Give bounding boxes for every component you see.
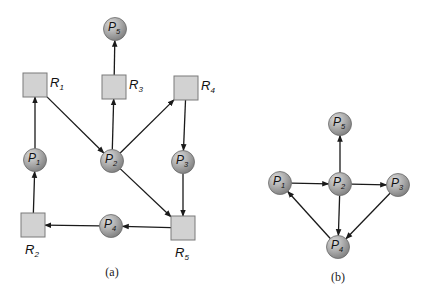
- resource-square-icon: [102, 75, 126, 99]
- node-label-subscript: 5: [184, 253, 189, 262]
- process-node-p2: P2: [329, 173, 352, 196]
- node-label-subscript: 2: [112, 159, 118, 168]
- process-node-p1: P1: [24, 149, 47, 172]
- node-label-subscript: 1: [281, 181, 285, 190]
- node-label-letter: P: [391, 176, 399, 190]
- process-node-p5: P5: [104, 18, 127, 41]
- figure-caption-b: (b): [331, 270, 345, 284]
- node-label-letter: P: [333, 175, 341, 189]
- node-label-letter: P: [28, 151, 36, 165]
- edge-p2-to-p4: [338, 195, 339, 235]
- node-label-subscript: 4: [339, 245, 343, 254]
- edge-r1-to-p2: [47, 97, 104, 153]
- node-label-letter: R: [129, 77, 138, 92]
- edge-p2-to-r4: [120, 100, 174, 153]
- node-label-subscript: 1: [59, 83, 63, 92]
- node-label-letter: R: [175, 245, 184, 260]
- edge-p1-to-p2: [291, 183, 328, 184]
- node-label-letter: R: [50, 75, 59, 90]
- node-label-letter: P: [108, 20, 116, 34]
- resource-square-icon: [21, 213, 45, 237]
- process-node-p4: P4: [327, 236, 350, 259]
- node-label: R4: [201, 78, 215, 95]
- process-node-p2: P2: [101, 150, 124, 173]
- edge-p4-to-r2: [45, 225, 100, 226]
- node-label-letter: R: [25, 242, 34, 257]
- resource-allocation-graph: R1R2R3R4R5P1P2P3P4P5 (a): [21, 18, 215, 280]
- node-label-letter: P: [105, 152, 113, 166]
- node-label-subscript: 1: [36, 158, 40, 167]
- node-label-subscript: 3: [138, 85, 143, 94]
- node-label-letter: P: [273, 174, 281, 188]
- node-label-letter: P: [331, 238, 339, 252]
- resource-node-r2: R2: [21, 213, 45, 259]
- node-label: R3: [129, 77, 143, 94]
- process-node-p3: P3: [387, 174, 410, 197]
- process-node-p5: P5: [329, 113, 352, 136]
- edge-p2-to-r3: [112, 99, 113, 150]
- edge-r2-to-p1: [33, 171, 34, 213]
- process-node-p1: P1: [269, 172, 292, 195]
- edge-p4-to-p1: [288, 192, 331, 239]
- figure-caption-a: (a): [105, 265, 118, 279]
- edge-p2-to-r5: [120, 169, 171, 217]
- resource-node-r1: R1: [23, 73, 64, 97]
- node-label-letter: P: [104, 217, 112, 231]
- edge-p3-to-p4: [346, 193, 390, 238]
- edge-r4-to-p3: [183, 100, 185, 151]
- edge-r5-to-p4: [122, 226, 171, 227]
- nodes-group: P1P2P3P4P5: [269, 113, 410, 259]
- edge-p2-to-p3: [351, 184, 386, 185]
- edges-group: [33, 40, 185, 227]
- process-node-p3: P3: [172, 151, 195, 174]
- resource-node-r3: R3: [102, 75, 143, 99]
- node-label: R2: [25, 242, 39, 259]
- node-label: R5: [175, 245, 189, 262]
- node-label-subscript: 2: [33, 250, 39, 259]
- node-label-subscript: 4: [210, 86, 215, 95]
- resource-square-icon: [23, 73, 47, 97]
- process-node-p4: P4: [100, 215, 123, 238]
- resource-node-r5: R5: [171, 216, 195, 262]
- resource-allocation-graph-figure: R1R2R3R4R5P1P2P3P4P5 (a) P1P2P3P4P5 (b): [0, 0, 427, 297]
- resource-square-icon: [171, 216, 195, 240]
- node-label-letter: P: [333, 115, 341, 129]
- resource-node-r4: R4: [174, 76, 215, 100]
- node-label: R1: [50, 75, 64, 92]
- resource-square-icon: [174, 76, 198, 100]
- node-label-letter: P: [176, 153, 184, 167]
- wait-for-graph: P1P2P3P4P5 (b): [269, 113, 410, 285]
- node-label-subscript: 4: [112, 224, 116, 233]
- edge-r3-to-p5: [114, 40, 115, 75]
- node-label-subscript: 2: [340, 182, 346, 191]
- node-label-letter: R: [201, 78, 210, 93]
